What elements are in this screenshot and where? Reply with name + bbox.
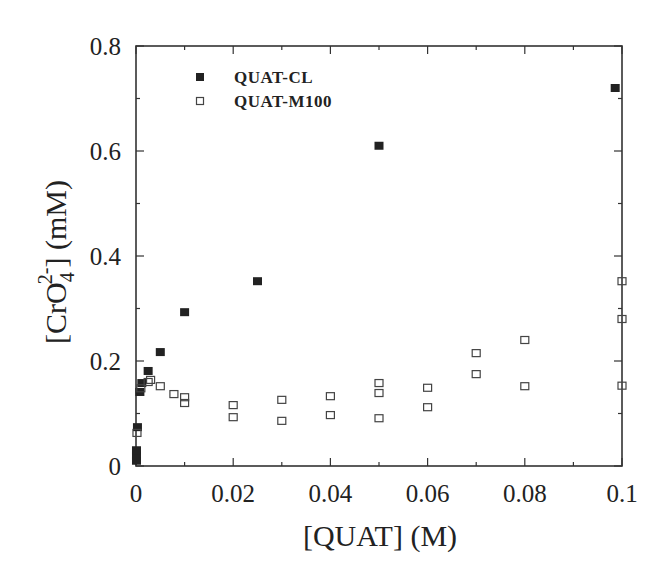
x-tick-label: 0.1 — [606, 480, 637, 507]
y-tick-label: 0.8 — [90, 33, 121, 60]
legend: QUAT-CL QUAT-M100 — [196, 68, 332, 111]
data-point-open-square — [229, 414, 237, 421]
y-axis-title: [CrO42-] (mM) — [34, 180, 78, 344]
y-axis-title-sub: 4 — [56, 272, 78, 282]
data-point-filled-square — [611, 84, 620, 92]
data-point-filled-square — [375, 142, 384, 150]
x-tick-label: 0.02 — [211, 480, 255, 507]
legend-label-quat-m100: QUAT-M100 — [234, 92, 332, 111]
data-point-open-square — [229, 402, 237, 409]
y-axis-title-suffix: ] (mM) — [39, 180, 73, 267]
x-tick-label: 0.06 — [406, 480, 450, 507]
data-point-open-square — [156, 383, 164, 390]
x-tick-label: 0.04 — [309, 480, 353, 507]
data-point-filled-square — [180, 308, 189, 316]
data-point-open-square — [278, 417, 286, 424]
data-point-filled-square — [156, 348, 165, 356]
scatter-chart: 00.020.040.060.080.1 00.20.40.60.8 QUAT-… — [0, 0, 665, 574]
x-axis-title: [QUAT] (M) — [303, 519, 457, 553]
y-tick-label: 0.2 — [90, 348, 121, 375]
data-point-open-square — [326, 412, 334, 419]
data-point-open-square — [424, 404, 432, 411]
y-tick-label: 0 — [109, 453, 122, 480]
series-quat-cl — [132, 84, 620, 465]
data-point-open-square — [170, 391, 178, 398]
data-point-open-square — [472, 350, 480, 357]
y-tick-labels: 00.20.40.60.8 — [90, 33, 122, 480]
x-tick-label: 0 — [130, 480, 143, 507]
data-point-open-square — [326, 393, 334, 400]
data-point-open-square — [521, 383, 529, 390]
data-point-open-square — [278, 396, 286, 403]
data-point-filled-square — [132, 446, 141, 454]
legend-label-quat-cl: QUAT-CL — [234, 68, 313, 87]
y-tick-label: 0.6 — [90, 138, 121, 165]
data-point-filled-square — [253, 277, 262, 285]
plot-frame — [136, 46, 622, 466]
x-tick-labels: 00.020.040.060.080.1 — [130, 480, 638, 507]
axis-ticks — [136, 46, 622, 466]
data-point-open-square — [472, 371, 480, 378]
legend-marker-quat-m100-icon — [197, 98, 204, 105]
data-point-open-square — [521, 337, 529, 344]
data-point-open-square — [375, 390, 383, 397]
data-points — [132, 84, 626, 465]
y-axis-title-sup: 2- — [34, 268, 56, 285]
x-tick-label: 0.08 — [503, 480, 547, 507]
legend-marker-quat-cl-icon — [196, 73, 204, 81]
data-point-open-square — [375, 380, 383, 387]
data-point-open-square — [375, 415, 383, 422]
y-tick-label: 0.4 — [90, 243, 122, 270]
data-point-filled-square — [144, 367, 153, 375]
y-axis-title-prefix: [CrO — [39, 282, 72, 344]
series-quat-m100 — [133, 278, 626, 437]
data-point-open-square — [147, 376, 155, 383]
data-point-open-square — [424, 384, 432, 391]
